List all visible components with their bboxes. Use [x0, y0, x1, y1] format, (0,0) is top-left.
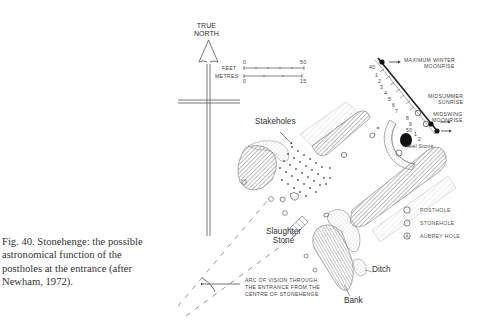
scale-metres-label: METRES: [215, 73, 238, 79]
figure-caption: Fig. 40. Stonehenge: the possible astron…: [2, 235, 152, 289]
label-slaughter-line1: Slaughter: [266, 227, 301, 236]
legend-item-stonehole: STONEHOLE: [403, 219, 455, 227]
north-label-line2: NORTH: [194, 30, 219, 38]
arc-line2: THE ENTRANCE FROM THE: [245, 284, 320, 291]
label-bank: Bank: [344, 296, 363, 305]
north-label: TRUE NORTH: [194, 22, 219, 38]
henge-bank-left: [238, 141, 289, 190]
scale-feet-end: 50: [300, 59, 306, 65]
label-max-winter-moonrise: MAXIMUM WINTER MOONRISE: [404, 57, 455, 70]
label-midswing-line2: MOONRISE: [432, 117, 463, 123]
label-stakeholes: Stakeholes: [255, 117, 296, 126]
scale-metres-end: 15: [300, 78, 306, 84]
row-number: 2: [418, 136, 421, 142]
label-max-winter-line2: MOONRISE: [404, 63, 455, 69]
row-number: 50: [406, 127, 412, 133]
row-number: 3: [380, 84, 383, 90]
label-midswing-moonrise: MIDSWING MOONRISE: [432, 111, 463, 124]
scale-metres-start: 0: [243, 78, 246, 84]
arc-line3: CENTRE OF STONEHENGE: [245, 291, 320, 298]
label-slaughter-line2: Stone: [266, 236, 301, 245]
posthole-icon: [403, 206, 411, 214]
row-number: 1: [414, 131, 417, 137]
arc-of-vision-bracket: [202, 278, 240, 292]
legend-item-aubrey-hole: A AUBREY HOLE: [403, 232, 460, 240]
aubrey-hole-icon: A: [403, 232, 411, 240]
label-midsummer-line2: SUNRISE: [428, 99, 463, 105]
row-number: 40: [369, 64, 375, 70]
arc-of-vision-annotation: ARC OF VISION THROUGH THE ENTRANCE FROM …: [245, 277, 320, 298]
legend-label: AUBREY HOLE: [420, 233, 460, 239]
label-slaughter-stone: Slaughter Stone: [266, 227, 301, 245]
label-heel-stone: Heel Stone: [405, 143, 434, 149]
scale-bar: [244, 66, 304, 78]
legend-item-posthole: POSTHOLE: [403, 206, 451, 214]
svg-text:A: A: [405, 234, 408, 239]
label-midsummer-sunrise: MIDSUMMER SUNRISE: [428, 93, 463, 106]
legend-label: STONEHOLE: [420, 220, 455, 226]
arc-line1: ARC OF VISION THROUGH: [245, 277, 320, 284]
avenue-bank-upper: [300, 102, 370, 156]
scale-feet-label: FEET: [222, 65, 236, 71]
row-number: 5: [388, 96, 391, 102]
stonehole-icon: [403, 219, 411, 227]
aubrey-holes: [242, 180, 317, 272]
legend-label: POSTHOLE: [420, 207, 451, 213]
north-label-line1: TRUE: [194, 22, 219, 30]
scale-feet-start: 0: [243, 59, 246, 65]
row-number: 4: [384, 90, 387, 96]
row-number: 7: [395, 108, 398, 114]
arc-of-vision-lines: [178, 200, 300, 316]
label-ditch: Ditch: [372, 265, 391, 274]
